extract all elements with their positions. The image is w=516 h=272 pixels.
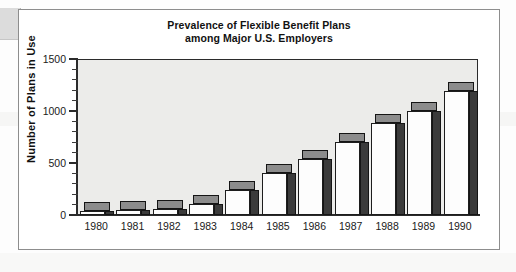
bar-top-face [157, 200, 183, 209]
page-canvas: Prevalence of Flexible Benefit Plans amo… [0, 0, 516, 272]
bar-1986 [298, 150, 332, 215]
bar-1981 [116, 201, 150, 215]
bar-1985 [262, 164, 296, 215]
bar-1988 [371, 114, 405, 215]
scan-artifact-band [0, 253, 516, 272]
y-tick-major [69, 110, 78, 112]
bar-top-face [266, 164, 292, 173]
bar-side-face [141, 210, 150, 215]
chart-title-line-1: Prevalence of Flexible Benefit Plans [167, 19, 350, 31]
bar-side-face [287, 173, 296, 215]
y-tick-minor [72, 90, 78, 91]
x-tick-label-1987: 1987 [333, 220, 369, 232]
x-tick-label-1986: 1986 [296, 220, 332, 232]
bar-1989 [407, 102, 441, 215]
bar-front-face [189, 204, 214, 215]
bar-1983 [189, 195, 223, 215]
y-tick-minor [72, 69, 78, 70]
bar-top-face [84, 202, 110, 211]
y-axis-line [76, 58, 78, 216]
bar-top-face [229, 181, 255, 190]
bar-side-face [250, 190, 259, 215]
bar-front-face [335, 142, 360, 215]
bar-1980 [80, 202, 114, 215]
x-tick-label-1982: 1982 [151, 220, 187, 232]
y-axis-title: Number of Plans in Use [25, 24, 37, 174]
y-tick-minor [72, 142, 78, 143]
x-tick-label-1980: 1980 [78, 220, 114, 232]
y-tick-minor [72, 121, 78, 122]
bar-side-face [178, 209, 187, 215]
y-tick-minor [72, 100, 78, 101]
bar-side-face [323, 159, 332, 215]
bar-top-face [448, 82, 474, 91]
bar-front-face [80, 211, 105, 215]
bar-front-face [298, 159, 323, 215]
bar-side-face [432, 111, 441, 215]
bar-front-face [407, 111, 432, 215]
x-tick-label-1981: 1981 [114, 220, 150, 232]
bar-1987 [335, 133, 369, 215]
chart-title-line-2: among Major U.S. Employers [19, 32, 499, 45]
bar-top-face [339, 133, 365, 142]
bar-front-face [262, 173, 287, 215]
bar-top-face [302, 150, 328, 159]
y-tick-major [69, 214, 78, 216]
y-tick-minor [72, 131, 78, 132]
y-tick-label: 500 [6, 157, 66, 169]
bar-side-face [360, 142, 369, 215]
y-tick-label: 0 [6, 209, 66, 221]
bar-front-face [444, 91, 469, 215]
y-tick-minor [72, 79, 78, 80]
y-tick-major [69, 58, 78, 60]
y-tick-minor [72, 173, 78, 174]
x-tick-label-1984: 1984 [223, 220, 259, 232]
x-tick-label-1985: 1985 [260, 220, 296, 232]
y-tick-minor [72, 152, 78, 153]
bar-top-face [120, 201, 146, 210]
bar-1982 [153, 200, 187, 215]
bar-front-face [371, 123, 396, 215]
bar-front-face [116, 210, 141, 215]
y-tick-label: 1000 [6, 105, 66, 117]
bar-side-face [396, 123, 405, 215]
bar-front-face [225, 190, 250, 215]
bar-side-face [214, 204, 223, 215]
y-tick-minor [72, 183, 78, 184]
x-tick-label-1989: 1989 [405, 220, 441, 232]
chart-title: Prevalence of Flexible Benefit Plans amo… [19, 19, 499, 44]
y-tick-major [69, 162, 78, 164]
bar-top-face [411, 102, 437, 111]
bar-top-face [375, 114, 401, 123]
bar-side-face [469, 91, 478, 215]
bar-1984 [225, 181, 259, 215]
y-tick-label: 1500 [6, 53, 66, 65]
y-tick-minor [72, 194, 78, 195]
y-tick-minor [72, 204, 78, 205]
bar-top-face [193, 195, 219, 204]
x-tick-label-1983: 1983 [187, 220, 223, 232]
x-tick-label-1990: 1990 [442, 220, 478, 232]
bar-side-face [105, 211, 114, 215]
bar-1990 [444, 82, 478, 215]
bar-front-face [153, 209, 178, 215]
x-tick-label-1988: 1988 [369, 220, 405, 232]
